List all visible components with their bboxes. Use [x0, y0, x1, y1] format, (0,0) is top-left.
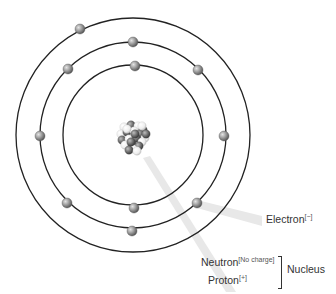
- electron: [192, 198, 202, 208]
- nucleus: [117, 121, 150, 155]
- neutron: [138, 122, 146, 130]
- electron: [129, 203, 139, 213]
- neutron: [133, 147, 141, 155]
- proton: [127, 138, 135, 146]
- electron: [219, 131, 229, 141]
- nucleus-bracket: [278, 256, 282, 289]
- proton: [125, 146, 133, 154]
- electron: [63, 64, 73, 74]
- electron-pointer: [197, 200, 262, 226]
- electron: [75, 24, 85, 34]
- electron: [127, 226, 137, 236]
- nucleus-label: Nucleus: [287, 264, 325, 275]
- electron: [128, 37, 138, 47]
- proton: [131, 130, 139, 138]
- electron-charge: [−]: [305, 213, 313, 220]
- neutron-charge: [No charge]: [238, 256, 274, 263]
- electron: [130, 61, 140, 71]
- proton-label-text: Proton: [208, 274, 239, 286]
- neutron-label: Neutron[No charge]: [201, 257, 275, 268]
- proton: [142, 130, 150, 138]
- electron: [35, 131, 45, 141]
- proton-label: Proton[+]: [208, 275, 247, 286]
- atom-diagram: [0, 0, 336, 294]
- electron-label-text: Electron: [266, 213, 305, 225]
- neutron: [123, 125, 131, 133]
- proton-charge: [+]: [239, 274, 247, 281]
- neutron-label-text: Neutron: [201, 256, 238, 268]
- electron: [62, 198, 72, 208]
- electron: [193, 65, 203, 75]
- electron-label: Electron[−]: [266, 214, 313, 225]
